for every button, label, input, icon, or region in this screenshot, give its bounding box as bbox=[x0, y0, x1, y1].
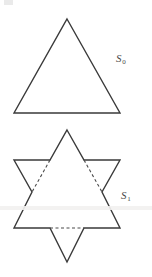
triangle-s0-outline bbox=[14, 19, 120, 113]
stage-label-s0-subscript: 0 bbox=[122, 58, 126, 66]
stage-label-s1-base: S bbox=[121, 189, 127, 201]
hexagram-s1-outline bbox=[14, 130, 120, 262]
stage-label-s0-base: S bbox=[116, 52, 122, 64]
figure-canvas: S0 S1 bbox=[0, 0, 152, 277]
stage-s0-group bbox=[14, 19, 120, 113]
stage-label-s1-subscript: 1 bbox=[127, 195, 131, 203]
hexagram-s1-dashed-inner-triangle bbox=[32, 160, 102, 228]
stage-label-s0: S0 bbox=[116, 52, 125, 64]
koch-snowflake-figure bbox=[0, 0, 152, 277]
stage-s1-group bbox=[14, 130, 120, 262]
stage-label-s1: S1 bbox=[121, 189, 130, 201]
